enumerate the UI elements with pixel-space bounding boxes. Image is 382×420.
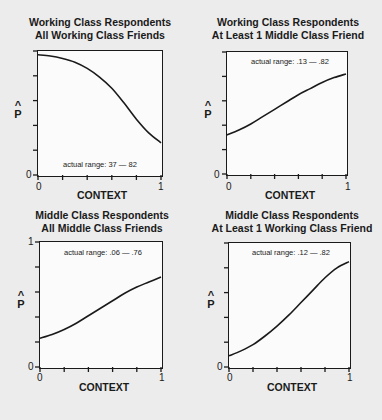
probability-curve (38, 55, 161, 143)
x-tick-1: 1 (347, 372, 353, 383)
y-axis-label: ^ P (12, 101, 24, 119)
x-tick-1: 1 (345, 181, 351, 192)
p: P (202, 110, 214, 119)
probability-curve (40, 277, 161, 338)
panel-title: Working Class Respondents At Least 1 Mid… (206, 16, 370, 42)
x-tick-0: 0 (36, 181, 42, 192)
x-axis-label: CONTEXT (265, 189, 315, 201)
title-line-1: Middle Class Respondents (22, 209, 182, 222)
x-axis-label: CONTEXT (79, 381, 129, 393)
actual-range-label: actual range: .13 — .82 (251, 57, 329, 66)
plot-area: actual range: .06 — .76 (39, 241, 163, 369)
title-line-2: At Least 1 Working Class Friend (210, 222, 374, 235)
p: P (12, 110, 24, 119)
plot-area: actual range: .12 — .82 (228, 242, 351, 369)
y-axis-label: ^ P (15, 291, 27, 309)
x-tick-1: 1 (158, 181, 164, 192)
panel-title: Middle Class Respondents At Least 1 Work… (210, 209, 374, 235)
x-tick-1: 1 (159, 372, 165, 383)
line-chart (227, 52, 349, 177)
actual-range-label: actual range: .06 — .76 (64, 248, 142, 257)
probability-curve (227, 74, 346, 135)
title-line-1: Working Class Respondents (20, 16, 180, 29)
title-line-1: Working Class Respondents (206, 16, 370, 29)
y-tick-1: 1 (28, 236, 34, 247)
p: P (205, 300, 217, 309)
plot-area: actual range: 37 — 82 (37, 50, 163, 177)
actual-range-label: actual range: .12 — .82 (252, 248, 330, 257)
p: P (15, 300, 27, 309)
y-tick-0: 0 (217, 361, 223, 372)
panel-title: Middle Class Respondents All Middle Clas… (22, 209, 182, 235)
line-chart (38, 51, 164, 178)
panel-title: Working Class Respondents All Working Cl… (20, 16, 180, 42)
y-tick-0: 0 (26, 169, 32, 180)
title-line-1: Middle Class Respondents (210, 209, 374, 222)
x-tick-0: 0 (37, 372, 43, 383)
line-chart (229, 243, 352, 370)
x-axis-label: CONTEXT (77, 189, 127, 201)
y-tick-0: 0 (28, 361, 34, 372)
y-tick-0: 0 (214, 169, 220, 180)
plot-area: actual range: .13 — .82 (226, 51, 348, 176)
line-chart (40, 242, 164, 370)
title-line-2: All Working Class Friends (20, 29, 180, 42)
x-axis-label: CONTEXT (267, 381, 317, 393)
x-tick-0: 0 (227, 372, 233, 383)
actual-range-label: actual range: 37 — 82 (63, 160, 137, 169)
x-tick-0: 0 (226, 181, 232, 192)
y-axis-label: ^ P (202, 101, 214, 119)
title-line-2: At Least 1 Middle Class Friend (206, 29, 370, 42)
y-axis-label: ^ P (205, 291, 217, 309)
probability-curve (229, 262, 349, 356)
title-line-2: All Middle Class Friends (22, 222, 182, 235)
